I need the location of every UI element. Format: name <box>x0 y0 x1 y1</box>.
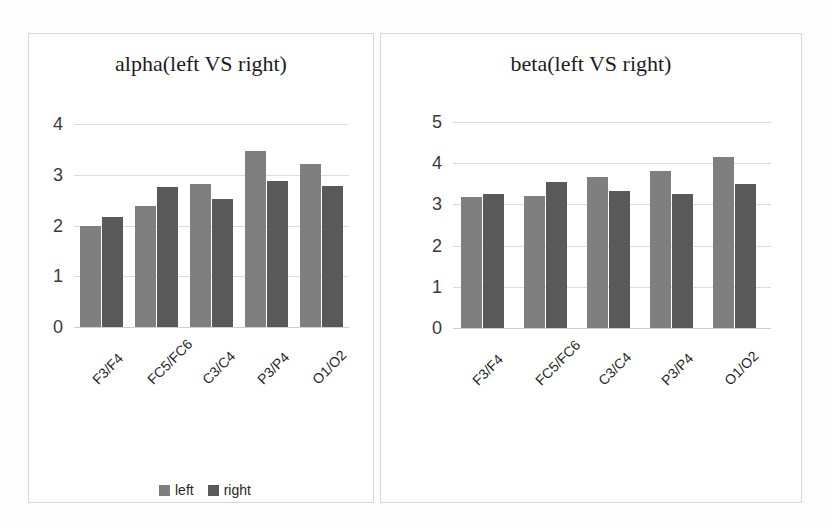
y-tick-label-3: 3 <box>432 194 442 215</box>
y-tick-label-1: 1 <box>432 276 442 297</box>
legend-entry-right: right <box>208 482 251 498</box>
bar-group <box>80 124 135 327</box>
bar-group <box>461 122 524 328</box>
y-tick-label-5: 5 <box>432 112 442 133</box>
legend-entry-left: left <box>159 482 194 498</box>
bar-right[interactable] <box>157 187 178 327</box>
legend-swatch-right-icon <box>208 485 219 496</box>
bar-right[interactable] <box>672 194 693 328</box>
legend-alpha: left right <box>159 482 259 498</box>
bar-group <box>190 124 245 327</box>
bar-left[interactable] <box>713 157 734 328</box>
bar-left[interactable] <box>80 226 101 328</box>
y-tick-label-4: 4 <box>432 153 442 174</box>
y-tick-label-3: 3 <box>53 164 63 185</box>
bar-group <box>524 122 587 328</box>
bar-right[interactable] <box>546 182 567 328</box>
x-tick-label: P3/P4 <box>658 350 696 388</box>
x-tick-label: FC5/FC6 <box>532 337 583 388</box>
y-tick-label-0: 0 <box>432 318 442 339</box>
bar-right[interactable] <box>267 181 288 327</box>
bar-left[interactable] <box>135 206 156 327</box>
bar-group <box>300 124 355 327</box>
x-tick-label: C3/C4 <box>595 349 634 388</box>
x-tick-label: F3/F4 <box>89 350 126 387</box>
bar-left[interactable] <box>524 196 545 328</box>
bar-series-alpha <box>74 124 349 327</box>
bar-right[interactable] <box>483 194 504 328</box>
plot-area-beta: 543210 <box>453 122 771 328</box>
bar-series-beta <box>453 122 771 328</box>
bar-right[interactable] <box>735 184 756 328</box>
gridline-0: 0 <box>74 327 349 328</box>
gridline-0: 0 <box>453 328 771 329</box>
y-tick-label-2: 2 <box>432 235 442 256</box>
y-tick-label-2: 2 <box>53 215 63 236</box>
chart-panel-alpha: alpha(left VS right) 43210 F3/F4FC5/FC6C… <box>28 33 374 503</box>
bar-group <box>245 124 300 327</box>
bar-right[interactable] <box>102 217 123 327</box>
legend-label-right: right <box>224 482 251 498</box>
chart-title-beta: beta(left VS right) <box>381 51 801 77</box>
legend-swatch-left-icon <box>159 485 170 496</box>
x-tick-label: F3/F4 <box>469 351 506 388</box>
x-tick-label: C3/C4 <box>199 348 238 387</box>
bar-group <box>587 122 650 328</box>
plot-area-alpha: 43210 <box>74 124 349 327</box>
bar-left[interactable] <box>190 184 211 327</box>
bar-left[interactable] <box>300 164 321 327</box>
y-tick-label-1: 1 <box>53 266 63 287</box>
bar-right[interactable] <box>609 191 630 328</box>
x-tick-label: P3/P4 <box>254 349 292 387</box>
bar-left[interactable] <box>245 151 266 327</box>
y-tick-label-4: 4 <box>53 114 63 135</box>
bar-left[interactable] <box>461 197 482 328</box>
bar-left[interactable] <box>650 171 671 328</box>
bar-group <box>135 124 190 327</box>
figure-canvas: alpha(left VS right) 43210 F3/F4FC5/FC6C… <box>0 0 832 528</box>
y-tick-label-0: 0 <box>53 317 63 338</box>
chart-panel-beta: beta(left VS right) 543210 F3/F4FC5/FC6C… <box>380 33 802 503</box>
chart-title-alpha: alpha(left VS right) <box>29 51 373 77</box>
legend-label-left: left <box>175 482 194 498</box>
x-tick-label: O1/O2 <box>309 347 349 387</box>
bar-left[interactable] <box>587 177 608 328</box>
x-tick-label: O1/O2 <box>721 348 761 388</box>
bar-group <box>650 122 713 328</box>
x-tick-label: FC5/FC6 <box>144 336 195 387</box>
bar-right[interactable] <box>212 199 233 327</box>
bar-group <box>713 122 776 328</box>
bar-right[interactable] <box>322 186 343 327</box>
